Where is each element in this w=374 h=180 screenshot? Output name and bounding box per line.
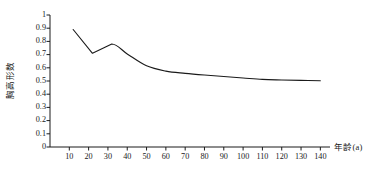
chart-container: 00.10.20.30.40.50.60.70.80.91 1020304050… bbox=[0, 0, 374, 180]
y-axis-tick-label: 0 bbox=[20, 143, 46, 151]
x-axis-title: 年龄(a) bbox=[334, 143, 362, 152]
y-axis-tick-label: 0.8 bbox=[20, 37, 46, 45]
y-axis-title: 胸高形数 bbox=[6, 58, 15, 102]
y-axis-ticks bbox=[47, 15, 51, 147]
y-axis-tick-label: 0.2 bbox=[20, 116, 46, 124]
y-axis-tick-label: 0.4 bbox=[20, 90, 46, 98]
data-series-line bbox=[73, 30, 320, 81]
y-axis-tick-label: 0.5 bbox=[20, 77, 46, 85]
y-axis-tick-label: 0.3 bbox=[20, 103, 46, 111]
x-axis-tick-label: 140 bbox=[307, 153, 333, 161]
y-axis-tick-label: 0.1 bbox=[20, 130, 46, 138]
x-axis-ticks bbox=[69, 147, 320, 151]
y-axis-tick-label: 1 bbox=[20, 11, 46, 19]
y-axis-tick-label: 0.6 bbox=[20, 64, 46, 72]
y-axis-tick-label: 0.7 bbox=[20, 50, 46, 58]
y-axis-tick-label: 0.9 bbox=[20, 24, 46, 32]
